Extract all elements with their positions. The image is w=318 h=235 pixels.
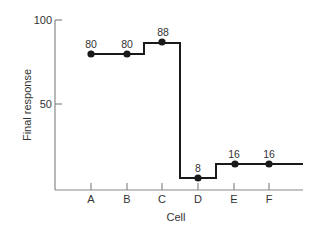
step-chart: 100 50 Final response A B C D E F Cell 8…	[0, 0, 318, 235]
x-tick-label-c: C	[158, 193, 166, 205]
x-ticks	[91, 183, 269, 190]
x-axis-label: Cell	[167, 211, 186, 223]
data-label-f: 16	[263, 148, 275, 160]
y-tick-label-50: 50	[40, 98, 52, 110]
data-label-b: 80	[121, 38, 133, 50]
data-label-d: 8	[195, 162, 201, 174]
y-axis-label: Final response	[21, 69, 33, 141]
data-label-c: 88	[157, 26, 169, 38]
data-label-a: 80	[85, 38, 97, 50]
y-tick-label-100: 100	[34, 14, 52, 26]
data-label-e: 16	[228, 148, 240, 160]
x-tick-label-f: F	[266, 193, 273, 205]
x-tick-label-a: A	[87, 193, 95, 205]
x-tick-label-b: B	[123, 193, 130, 205]
x-tick-label-e: E	[230, 193, 237, 205]
x-tick-label-d: D	[194, 193, 202, 205]
